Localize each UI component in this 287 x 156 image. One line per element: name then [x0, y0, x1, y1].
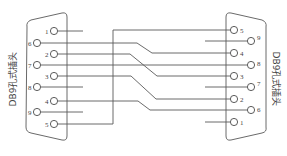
right-pin-8 — [247, 61, 254, 68]
left-pin-label: 3 — [45, 73, 49, 81]
left-pin-label: 1 — [45, 28, 49, 36]
right-pin-label: 5 — [240, 27, 244, 35]
left-pin-label: 8 — [28, 84, 32, 92]
right-pin-label: 7 — [257, 80, 261, 88]
right-pin-4 — [230, 49, 237, 56]
wire-l6-r4 — [41, 43, 230, 53]
right-pin-7 — [247, 83, 254, 90]
left-pin-8 — [33, 83, 40, 90]
right-pin-label: 6 — [257, 106, 261, 114]
left-pin-5 — [50, 120, 57, 127]
left-pin-label: 7 — [28, 62, 32, 70]
left-pin-2 — [50, 50, 57, 57]
right-connector-label: DB9孔式插头 — [271, 52, 282, 107]
right-pin-label: 4 — [240, 50, 244, 58]
wire-l4-r6 — [58, 101, 247, 110]
right-pin-3 — [230, 72, 237, 79]
left-connector-label: DB9孔式插头 — [7, 52, 18, 107]
left-pin-1 — [50, 27, 57, 34]
right-pin-label: 1 — [240, 119, 244, 127]
right-pin-label: 8 — [257, 60, 261, 68]
right-pin-6 — [247, 106, 254, 113]
right-pin-5 — [230, 26, 237, 33]
right-pin-label: 3 — [240, 73, 244, 81]
left-pin-9 — [33, 108, 40, 115]
left-pin-label: 6 — [28, 40, 32, 48]
left-pin-6 — [33, 39, 40, 46]
left-pin-3 — [50, 72, 57, 79]
right-pin-label: 9 — [257, 34, 261, 42]
left-pin-label: 2 — [45, 51, 49, 59]
left-pin-4 — [50, 97, 57, 104]
right-pin-label: 2 — [240, 96, 244, 104]
left-pin-label: 4 — [45, 98, 49, 106]
right-pin-1 — [230, 118, 237, 125]
left-pin-label: 5 — [45, 121, 49, 129]
right-pin-2 — [230, 95, 237, 102]
wiring-diagram: DB9孔式插头 DB9孔式插头 — [0, 0, 287, 156]
left-pin-label: 9 — [28, 109, 32, 117]
wire-l3-r2 — [58, 76, 230, 99]
right-pin-9 — [247, 37, 254, 44]
left-pin-7 — [33, 61, 40, 68]
wires — [41, 30, 247, 124]
